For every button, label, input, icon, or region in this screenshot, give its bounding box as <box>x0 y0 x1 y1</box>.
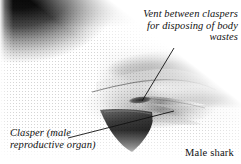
vent-leader-line <box>142 48 174 101</box>
vent-caption: Vent between claspers for disposing of b… <box>112 8 238 43</box>
subject-label: Male shark <box>185 147 234 158</box>
clasper-caption: Clasper (male reproductive organ) <box>10 127 122 150</box>
shark-anatomy-figure: Vent between claspers for disposing of b… <box>0 0 241 164</box>
